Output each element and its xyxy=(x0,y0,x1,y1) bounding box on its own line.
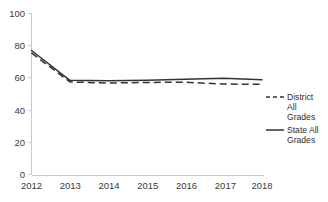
chart-legend: District All Grades State All Grades xyxy=(266,92,319,145)
line-chart: 100 80 60 40 20 0 2012 2013 2014 2015 20… xyxy=(0,0,328,202)
legend-label-district-line1: District xyxy=(287,92,314,102)
y-axis-label-20: 20 xyxy=(14,137,25,148)
x-axis-label-2016: 2016 xyxy=(176,180,197,191)
y-axis-label-80: 80 xyxy=(14,40,25,51)
x-axis-label-2015: 2015 xyxy=(137,180,158,191)
x-axis-label-2013: 2013 xyxy=(60,180,81,191)
x-axis-label-2014: 2014 xyxy=(99,180,120,191)
y-axis-label-60: 60 xyxy=(14,72,25,83)
y-axis-label-100: 100 xyxy=(9,8,25,19)
x-axis-label-2017: 2017 xyxy=(215,180,236,191)
x-axis-label-2012: 2012 xyxy=(21,180,42,191)
y-axis-label-0: 0 xyxy=(20,169,25,180)
y-axis-label-40: 40 xyxy=(14,105,25,116)
chart-canvas: 100 80 60 40 20 0 2012 2013 2014 2015 20… xyxy=(0,0,328,202)
series-line-state-all-grades xyxy=(32,51,263,81)
legend-label-district-line3: Grades xyxy=(287,112,315,122)
legend-label-district-line2: All xyxy=(287,102,297,112)
legend-label-state-line2: Grades xyxy=(287,135,315,145)
legend-label-state-line1: State All xyxy=(287,125,319,135)
x-axis-label-2018: 2018 xyxy=(251,180,272,191)
